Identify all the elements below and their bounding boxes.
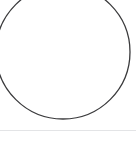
- footer-area: [0, 131, 136, 144]
- figure-area: [0, 0, 136, 130]
- circle-outline-shape: [0, 0, 130, 119]
- circle-figure: [0, 0, 136, 130]
- screenshot-canvas: [0, 0, 136, 144]
